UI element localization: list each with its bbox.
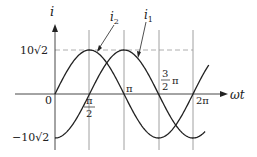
i1-pointer-arrow-icon <box>137 51 141 58</box>
sine-wave-diagram: i ωt 0 10√2 −10√2 i2 i1 π 2 π 3 2 π 2π <box>0 0 257 157</box>
i1-label: i1 <box>144 8 153 24</box>
i1-pointer <box>139 22 146 54</box>
y-axis-arrow-icon <box>52 24 58 32</box>
tick-pi-over-2: π 2 <box>84 95 95 119</box>
y-min-label: −10√2 <box>12 131 49 144</box>
svg-text:2: 2 <box>86 108 92 119</box>
vertical-gridlines <box>89 30 193 150</box>
y-axis-label: i <box>50 4 54 19</box>
y-max-label: 10√2 <box>20 44 48 57</box>
i2-pointer <box>98 25 114 50</box>
svg-text:2: 2 <box>162 81 168 92</box>
tick-pi: π <box>126 83 133 94</box>
svg-text:π: π <box>86 95 93 106</box>
tick-2pi: 2π <box>196 95 209 106</box>
i2-label: i2 <box>110 10 119 26</box>
svg-text:π: π <box>172 75 179 86</box>
origin-label: 0 <box>45 94 52 107</box>
i2-pointer-arrow-icon <box>97 45 102 52</box>
tick-3-over-2-pi: 3 2 π <box>161 68 179 92</box>
x-axis-arrow-icon <box>220 91 228 97</box>
x-axis-label: ωt <box>230 88 245 102</box>
svg-text:3: 3 <box>162 68 168 79</box>
